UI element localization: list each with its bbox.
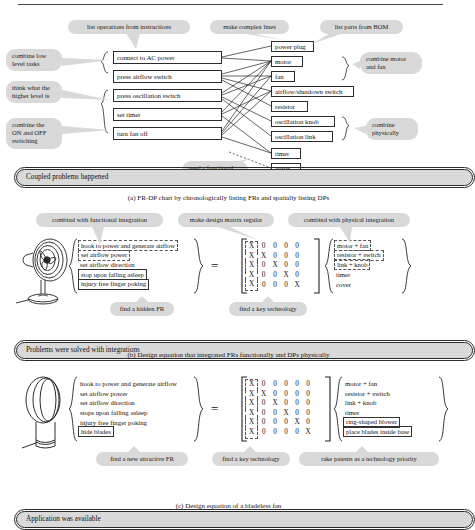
callout-think-higher-level: think what the higher level is [6,81,62,103]
callout-list-parts-bom: list parts from BOM [320,20,403,34]
equals-sign-c: = [211,402,218,415]
fr-box-press-airflow-switch[interactable]: press airflow switch [113,70,222,83]
matrix-cell-r6c1: X [246,428,258,438]
matrix-cell-r4c3: 0 [270,271,281,281]
matrix-cell-r3c2: 0 [258,399,270,409]
dp-row: motor + fan [343,379,431,389]
dp-box-timer[interactable]: timer [271,148,301,159]
fr-row: set airflow power [78,389,188,399]
matrix-cell-r6c4: 0 [281,428,292,438]
caption-panel-a: (a) FR-DP chart by chronologically listi… [0,194,457,203]
fr-item-injury-free-finger: injury free finger poking [78,418,149,426]
matrix-cell-r6c2: 0 [258,428,270,438]
matrix-cell-r3c1: X [246,261,258,271]
dp-item-timer: timer [334,271,352,279]
dp-brace-right-b [400,238,412,294]
dp-box-oscillation-knob[interactable]: oscillation knob [271,116,335,127]
matrix-cell-r4c1: X [246,409,258,419]
matrix-row: X00X0 [246,271,303,281]
callout-combine-low-level-tasks: combine low level tasks [6,49,62,71]
fr-item-set-airflow-direction: set airflow direction [78,261,137,269]
dp-box-airflow-shutdown-switch[interactable]: airflow/shutdown switch [271,86,354,97]
dp-box-motor[interactable]: motor [271,56,303,67]
matrix-cell-r2c2: X [258,390,270,400]
caption-panel-c: (c) Design equation of a bladeless fan [0,502,457,511]
fr-box-press-oscillation-switch[interactable]: press oscillation switch [113,89,222,102]
dp-box-oscillation-link[interactable]: oscillation link [271,131,333,142]
dp-label: power plug [275,43,306,51]
dp-label: timer [275,150,289,158]
fr-row: set airflow direction [78,398,188,408]
dp-item-timer: timer [343,409,361,417]
dp-row: link + knob [343,398,431,408]
matrix-cell-r5c4: 0 [281,280,292,290]
dp-brace-right-c [437,376,449,442]
fr-item-set-airflow-direction: set airflow direction [78,399,137,407]
capsule-coupled-problems: Coupled problems happened [16,169,473,186]
matrix-cell-r1c3: 0 [270,242,281,252]
matrix-cell-r5c1: X [246,418,258,428]
matrix-cell-r5c3: 0 [270,418,281,428]
matrix-cell-r4c2: 0 [258,409,270,419]
fr-box-connect-ac-power[interactable]: connect to AC power [113,51,222,64]
matrix-cell-r6c5: 0 [292,428,303,438]
callout-find-key-technology-c: find a key technology [212,452,290,466]
fr-brace-right-b [192,238,204,294]
fr-box-turn-fan-off[interactable]: turn fan off [113,127,222,140]
matrix-cell-r2c3: 0 [270,390,281,400]
fr-box-set-timer[interactable]: set timer [113,108,222,121]
dp-label: motor [275,58,291,66]
matrix-bracket-right-b [313,238,321,294]
matrix-cell-r2c5: 0 [292,390,303,400]
matrix-cell-r3c6: 0 [303,399,314,409]
matrix-cell-r6c6: X [303,428,314,438]
fr-row: injury free finger poking [78,279,186,289]
callout-find-hidden-fr: find a hidden FR [110,302,174,316]
callout-list-operations: list operations from instructions [68,20,190,34]
matrix-cell-r2c3: 0 [270,252,281,262]
fr-item-set-airflow-power: set airflow power [78,250,130,261]
matrix-table-b: X0000XX000X0X00X00X0X000X [245,241,303,291]
fr-brace-right-c [192,376,204,442]
fr-label: set timer [117,111,141,119]
matrix-cell-r5c2: 0 [258,280,270,290]
matrix-cell-r2c2: X [258,252,270,262]
fr-row: stops upon falling asleep [78,408,188,418]
capsule-label: Coupled problems happened [26,173,108,181]
matrix-table-c: X00000XX0000X0X000X00X00X000X0X0000X [245,379,314,439]
matrix-cell-r5c3: 0 [270,280,281,290]
fr-item-injury-free-finger: injury free finger poking [78,279,149,290]
matrix-cell-r1c1: X [246,242,258,252]
fr-label: press oscillation switch [117,92,180,100]
dp-box-resistor[interactable]: resistor [271,101,308,112]
design-matrix-b: X0000XX000X0X00X00X0X000X [245,241,303,291]
matrix-cell-r1c6: 0 [303,380,314,390]
callout-find-key-technology-b: find a key technology [229,302,307,316]
matrix-cell-r3c3: X [270,261,281,271]
matrix-cell-r6c3: 0 [270,428,281,438]
fr-item-hook-power: hook to power and generate airflow [78,380,179,388]
design-matrix-c: X00000XX0000X0X000X00X00X000X0X0000X [245,379,314,439]
matrix-cell-r2c1: X [246,390,258,400]
matrix-row: X0X00 [246,261,303,271]
panel-b-fr-list: hook to power and generate airflow set a… [78,241,186,289]
matrix-row: X0X000 [246,399,314,409]
matrix-cell-r3c4: 0 [281,399,292,409]
dp-box-fan[interactable]: fan [271,71,295,82]
matrix-row: X00X00 [246,409,314,419]
dp-label: resistor [275,103,295,111]
equals-sign-b: = [211,259,218,272]
matrix-body-b: X0000XX000X0X00X00X0X000X [246,242,303,291]
matrix-cell-r1c5: 0 [292,380,303,390]
matrix-cell-r1c2: 0 [258,380,270,390]
fr-row: set airflow power [78,251,186,261]
fr-row: hide blades [78,427,188,437]
matrix-cell-r4c4: X [281,409,292,419]
fr-item-set-airflow-power: set airflow power [78,389,130,397]
dp-item-cover: cover [334,280,353,288]
dp-box-power-plug[interactable]: power plug [271,41,314,52]
capsule-application-available: Application was available [16,511,473,528]
matrix-cell-r4c5: 0 [292,271,303,281]
fr-label: press airflow switch [117,73,172,81]
